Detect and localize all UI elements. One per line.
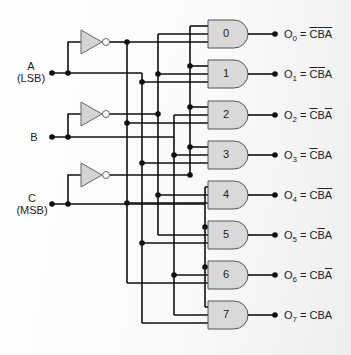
inverter-bubble bbox=[103, 39, 110, 46]
circuit-wiring bbox=[0, 0, 351, 355]
output-label-6: O6 = CBA bbox=[284, 269, 332, 286]
junction-dot bbox=[272, 152, 278, 158]
junction-dot bbox=[272, 31, 278, 37]
junction-dot bbox=[272, 272, 278, 278]
inverter-gate bbox=[81, 30, 102, 54]
output-label-1: O1 = CBA bbox=[284, 68, 332, 85]
inverter-bubble bbox=[103, 111, 110, 118]
input-label-a: A (LSB) bbox=[14, 60, 48, 84]
inverter-gate bbox=[81, 102, 102, 126]
junction-dot bbox=[139, 160, 145, 166]
output-label-2: O2 = CBA bbox=[284, 109, 332, 126]
output-label-7: O7 = CBA bbox=[284, 309, 332, 326]
inverter-bubble bbox=[103, 172, 110, 179]
inverter-gate bbox=[81, 163, 102, 187]
junction-dot bbox=[202, 224, 208, 230]
junction-dot bbox=[155, 192, 161, 198]
gate-number-2: 2 bbox=[216, 108, 236, 120]
junction-dot bbox=[171, 152, 177, 158]
junction-dot bbox=[124, 200, 130, 206]
output-label-0: O0 = CBA bbox=[284, 28, 332, 45]
input-label-b: B bbox=[24, 131, 44, 143]
junction-dot bbox=[272, 71, 278, 77]
wire bbox=[68, 114, 81, 137]
junction-dot bbox=[202, 264, 208, 270]
input-label-c: C (MSB) bbox=[14, 192, 50, 216]
wire bbox=[68, 42, 81, 73]
gate-number-1: 1 bbox=[216, 67, 236, 79]
junction-dot bbox=[171, 272, 177, 278]
junction-dot bbox=[272, 232, 278, 238]
gate-number-6: 6 bbox=[216, 268, 236, 280]
output-label-5: O5 = CBA bbox=[284, 229, 332, 246]
wire bbox=[68, 175, 81, 204]
gate-number-3: 3 bbox=[216, 148, 236, 160]
gate-number-7: 7 bbox=[216, 308, 236, 320]
junction-dot bbox=[187, 63, 193, 69]
gate-number-5: 5 bbox=[216, 228, 236, 240]
junction-dot bbox=[139, 79, 145, 85]
gate-number-4: 4 bbox=[216, 188, 236, 200]
junction-dot bbox=[272, 112, 278, 118]
decoder-diagram: A (LSB) B C (MSB) 01234567 O0 = CBAO1 = … bbox=[0, 0, 351, 355]
junction-dot bbox=[272, 312, 278, 318]
junction-dot bbox=[272, 192, 278, 198]
junction-dot bbox=[187, 144, 193, 150]
output-label-4: O4 = CBA bbox=[284, 189, 332, 206]
junction-dot bbox=[139, 240, 145, 246]
junction-dot bbox=[124, 120, 130, 126]
gate-number-0: 0 bbox=[216, 27, 236, 39]
output-label-3: O3 = CBA bbox=[284, 149, 332, 166]
junction-dot bbox=[187, 104, 193, 110]
junction-dot bbox=[155, 71, 161, 77]
